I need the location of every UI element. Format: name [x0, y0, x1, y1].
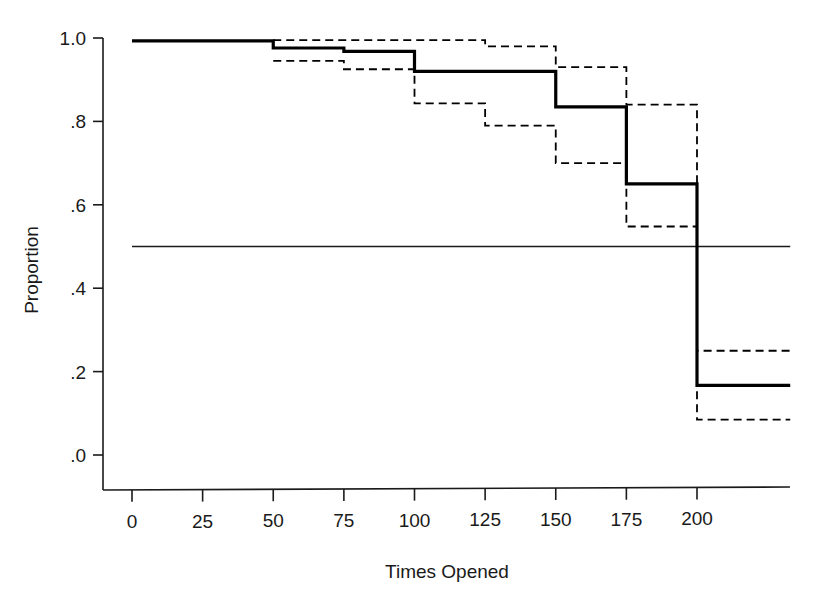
kaplan-meier-plot: .0.2.4.6.81.0 0255075100125150175200 Tim… — [0, 0, 826, 608]
x-tick-label: 0 — [127, 511, 138, 532]
y-tick-label: .2 — [70, 362, 86, 383]
y-tick-label: .8 — [70, 111, 86, 132]
y-tick-label: .4 — [70, 278, 86, 299]
x-tick-label: 50 — [263, 510, 284, 531]
x-tick-label: 100 — [399, 510, 431, 531]
x-tick-label: 150 — [540, 509, 572, 530]
chart-figure: .0.2.4.6.81.0 0255075100125150175200 Tim… — [0, 0, 826, 608]
x-axis-title: Times Opened — [385, 561, 509, 582]
x-tick-label: 175 — [611, 509, 643, 530]
y-axis-title: Proportion — [21, 226, 42, 314]
x-tick-label: 25 — [192, 511, 213, 532]
x-tick-label: 75 — [333, 510, 354, 531]
y-tick-label: .6 — [70, 195, 86, 216]
y-tick-label: 1.0 — [60, 28, 86, 49]
y-tick-label: .0 — [70, 445, 86, 466]
x-tick-label: 200 — [681, 508, 713, 529]
x-tick-label: 125 — [469, 509, 501, 530]
